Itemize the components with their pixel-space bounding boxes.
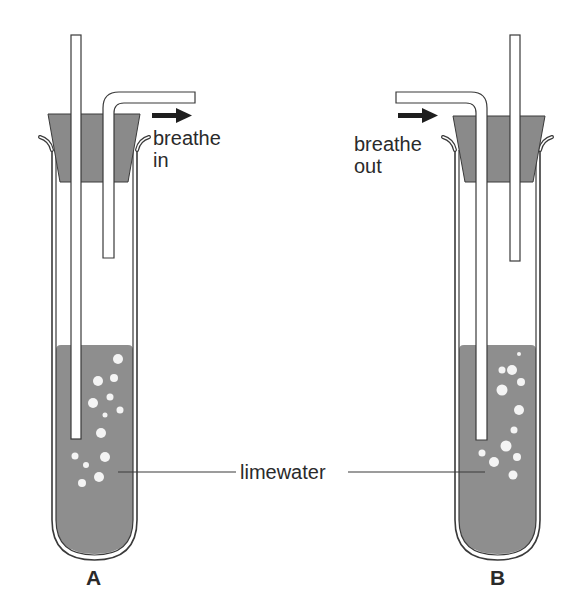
rubber-stopper-a bbox=[48, 114, 140, 182]
breathe-in-label: breathe in bbox=[153, 127, 221, 171]
limewater-apparatus-diagram bbox=[0, 0, 576, 591]
arrow-right-icon bbox=[152, 108, 192, 123]
breathe-out-label: breathe out bbox=[354, 133, 422, 177]
limewater-liquid-b bbox=[459, 345, 536, 554]
test-tube-a bbox=[40, 35, 195, 560]
rubber-stopper-b bbox=[453, 116, 545, 182]
arrow-right-icon bbox=[398, 108, 438, 123]
limewater-liquid-a bbox=[56, 345, 133, 554]
short-tube-b bbox=[510, 35, 520, 261]
tube-b-label: B bbox=[490, 566, 505, 590]
limewater-label: limewater bbox=[240, 461, 326, 483]
tube-a-label: A bbox=[86, 566, 101, 590]
long-tube-a bbox=[71, 35, 81, 439]
test-tube-b bbox=[396, 35, 552, 560]
